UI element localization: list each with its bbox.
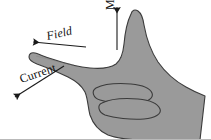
- right-hand-rule-figure: Field Current Motion: [0, 0, 211, 140]
- motion-label: Motion: [104, 0, 116, 10]
- field-arrow: [33, 42, 86, 47]
- folded-finger-lower: [99, 99, 160, 120]
